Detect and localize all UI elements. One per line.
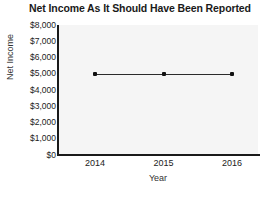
series-data-point	[93, 72, 97, 76]
y-tick-label: $6,000	[12, 53, 56, 62]
x-tick-label: 2014	[70, 158, 120, 168]
chart-title: Net Income As It Should Have Been Report…	[0, 2, 280, 14]
x-tick-label: 2016	[207, 158, 257, 168]
y-tick-label: $3,000	[12, 102, 56, 111]
plot-area	[58, 25, 258, 155]
chart-screenshot: Net Income As It Should Have Been Report…	[0, 0, 280, 200]
y-tick-label: $7,000	[12, 37, 56, 46]
y-tick-label: $0	[12, 151, 56, 160]
series-data-point	[162, 72, 166, 76]
y-tick-label: $1,000	[12, 134, 56, 143]
y-axis-spine	[57, 25, 59, 156]
y-tick-label: $8,000	[12, 21, 56, 30]
x-tick-label: 2015	[139, 158, 189, 168]
y-tick-label: $5,000	[12, 69, 56, 78]
series-data-point	[230, 72, 234, 76]
x-axis-title: Year	[58, 173, 258, 183]
y-tick-label: $2,000	[12, 118, 56, 127]
y-tick-label: $4,000	[12, 86, 56, 95]
x-axis-spine	[57, 154, 260, 156]
y-axis-tick-labels: $0$1,000$2,000$3,000$4,000$5,000$6,000$7…	[12, 20, 56, 160]
series-line-segment	[164, 74, 233, 76]
series-line-segment	[95, 74, 164, 76]
